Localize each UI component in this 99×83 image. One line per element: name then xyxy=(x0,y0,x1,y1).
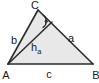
triangle-fill xyxy=(8,10,93,64)
side-label-b: b xyxy=(11,34,17,46)
vertex-label-b: B xyxy=(92,69,99,81)
vertex-label-c: C xyxy=(31,0,39,11)
geometry-canvas: C A B b a c ha xyxy=(0,0,99,83)
triangle-diagram: C A B b a c ha xyxy=(0,0,99,83)
side-label-c: c xyxy=(46,68,52,80)
right-angle-dot-icon xyxy=(45,20,48,23)
side-label-a: a xyxy=(68,32,75,44)
vertex-label-a: A xyxy=(2,69,10,81)
